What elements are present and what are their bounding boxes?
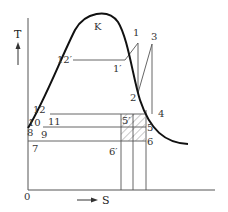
label-5: 5 <box>147 122 153 133</box>
line-2-3 <box>138 44 152 93</box>
t-arrowhead-icon <box>16 42 21 49</box>
label-3: 3 <box>151 31 157 42</box>
ts-diagram: T S 0 K 1 3 12′ 1′ 2 12 4 10 11 5′ 5 8 9… <box>0 0 228 212</box>
s-axis-label: S <box>102 194 110 207</box>
label-11: 11 <box>48 116 61 127</box>
label-2: 2 <box>130 92 136 103</box>
hatched-area-lower <box>133 127 145 141</box>
label-9: 9 <box>41 129 47 140</box>
label-8: 8 <box>27 127 33 138</box>
label-1p: 1′ <box>113 63 122 74</box>
label-6p: 6′ <box>109 146 118 157</box>
label-12: 12 <box>33 104 46 115</box>
label-6: 6 <box>147 136 153 147</box>
t-axis-label: T <box>14 28 22 41</box>
label-5p: 5′ <box>122 115 131 126</box>
label-12p: 12′ <box>57 54 73 65</box>
s-arrowhead-icon <box>91 198 98 203</box>
hatched-area-upper <box>133 114 145 127</box>
origin-label: 0 <box>24 191 30 202</box>
label-4: 4 <box>158 108 164 119</box>
label-K: K <box>94 21 102 32</box>
label-1: 1 <box>133 27 139 38</box>
label-7: 7 <box>32 143 38 154</box>
